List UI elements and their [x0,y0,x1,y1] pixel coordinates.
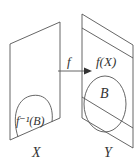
set-b-ellipse [84,76,126,132]
image-label: f(X) [96,54,116,69]
codomain-label: Y [104,145,114,160]
set-b-label: B [100,86,109,101]
preimage-label: f⁻¹(B) [16,114,45,128]
diagram-svg: f f(X) B f⁻¹(B) X Y [0,0,139,163]
domain-label: X [31,145,41,160]
preimage-diagram: f f(X) B f⁻¹(B) X Y [0,0,139,163]
codomain-plane [82,14,133,148]
map-arrow-head [84,68,92,75]
map-label: f [67,54,73,69]
